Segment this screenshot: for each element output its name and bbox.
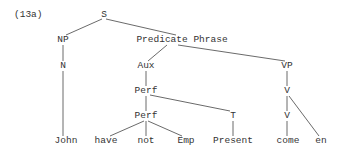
node-t: T	[230, 111, 236, 121]
node-s: S	[101, 10, 107, 20]
leaf-john: John	[55, 136, 78, 146]
node-aux: Aux	[137, 61, 154, 71]
leaf-en: en	[315, 136, 326, 146]
node-vp: VP	[281, 61, 292, 71]
leaf-present: Present	[213, 136, 253, 146]
node-n: N	[60, 61, 66, 71]
leaf-come: come	[277, 136, 300, 146]
leaf-not: not	[137, 136, 154, 146]
node-v-lower: V	[284, 111, 290, 121]
node-perf-lower: Perf	[135, 111, 158, 121]
node-perf-upper: Perf	[135, 86, 158, 96]
leaf-have: have	[95, 136, 118, 146]
tree-branches	[0, 0, 341, 152]
example-number: (13a)	[14, 10, 43, 20]
syntax-tree-diagram: (13a) S NP N Predicate Phrase Aux VP Per…	[0, 0, 341, 152]
leaf-emp: Emp	[177, 136, 194, 146]
node-v-upper: V	[284, 86, 290, 96]
node-np: NP	[57, 35, 68, 45]
node-predicate-phrase: Predicate Phrase	[136, 35, 227, 45]
